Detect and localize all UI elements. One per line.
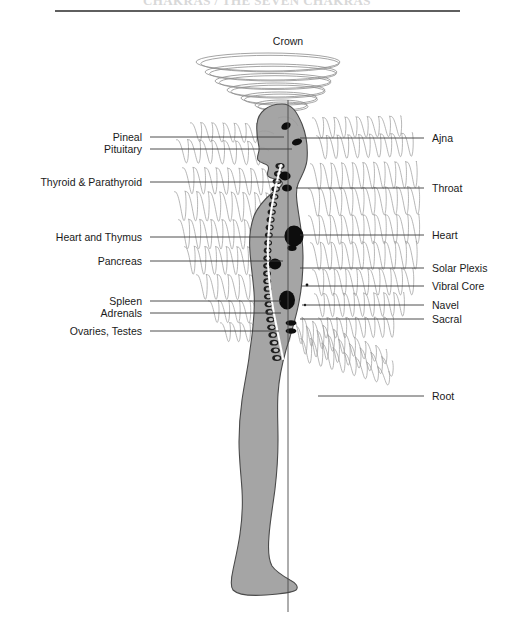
vertebra-body-25 bbox=[275, 356, 280, 359]
label-spleen: Spleen bbox=[109, 295, 142, 307]
heart-mark bbox=[284, 226, 303, 247]
throat-upper bbox=[279, 172, 290, 181]
anatomy-chakra-illustration: CHAKRAS / THE SEVEN CHAKRAS Crown Pineal… bbox=[0, 0, 514, 633]
label-pancreas: Pancreas bbox=[98, 255, 142, 267]
throat-lower bbox=[282, 184, 292, 191]
vertebra-body-24 bbox=[273, 349, 278, 352]
label-ajna: Ajna bbox=[432, 132, 453, 144]
vertebra-body-20 bbox=[269, 318, 274, 321]
label-root: Root bbox=[432, 390, 454, 402]
vertebra-body-23 bbox=[272, 341, 277, 344]
label-throat: Throat bbox=[432, 182, 462, 194]
label-ovaries-testes: Ovaries, Testes bbox=[70, 325, 142, 337]
vertebra-body-18 bbox=[267, 303, 272, 306]
solar-mark bbox=[269, 259, 281, 270]
crown-label: Crown bbox=[273, 35, 304, 47]
label-adrenals: Adrenals bbox=[101, 307, 142, 319]
label-thyroid: Thyroid & Parathyroid bbox=[40, 176, 142, 188]
sacral-lower bbox=[286, 328, 297, 334]
vertebra-body-22 bbox=[271, 333, 276, 336]
label-heart-thymus: Heart and Thymus bbox=[56, 231, 142, 243]
page-title: CHAKRAS / THE SEVEN CHAKRAS bbox=[143, 0, 371, 8]
label-navel: Navel bbox=[432, 299, 459, 311]
chakra-diagram-canvas: CHAKRAS / THE SEVEN CHAKRAS Crown Pineal… bbox=[0, 0, 514, 633]
heart-tail bbox=[287, 245, 296, 251]
label-solar-plexis: Solar Plexis bbox=[432, 262, 487, 274]
label-pineal: Pineal bbox=[113, 131, 142, 143]
label-sacral: Sacral bbox=[432, 313, 462, 325]
vertebra-body-21 bbox=[270, 326, 275, 329]
label-heart: Heart bbox=[432, 229, 458, 241]
navel-mark bbox=[279, 290, 295, 309]
sacral-upper bbox=[286, 320, 297, 326]
label-pituitary: Pituitary bbox=[104, 143, 143, 155]
label-vibral-core: Vibral Core bbox=[432, 280, 484, 292]
